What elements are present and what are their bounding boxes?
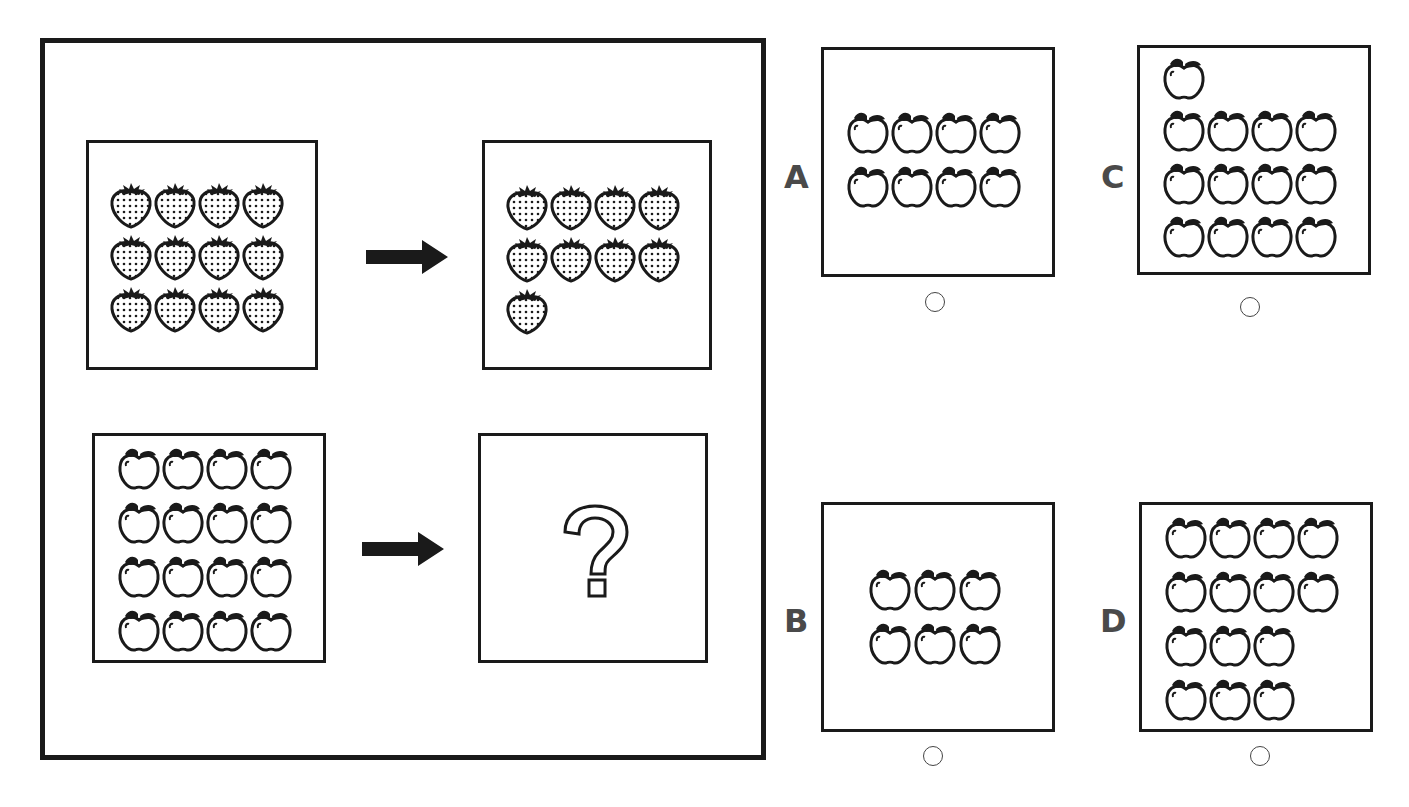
example-input-panel	[86, 140, 318, 370]
apple-icon	[1162, 52, 1206, 102]
apple-icon	[913, 563, 957, 613]
apple-icon	[1164, 673, 1208, 723]
apple-icon	[161, 604, 205, 654]
strawberry-icon	[637, 233, 681, 283]
apple-icon	[868, 617, 912, 667]
apple-icon	[1294, 157, 1338, 207]
apple-icon	[1164, 619, 1208, 669]
option-b-radio[interactable]	[923, 746, 943, 766]
apple-icon	[1162, 104, 1206, 154]
apple-icon	[161, 442, 205, 492]
apple-icon	[934, 106, 978, 156]
apple-icon	[1296, 565, 1340, 615]
apple-icon	[1252, 511, 1296, 561]
apple-icon	[913, 617, 957, 667]
strawberry-icon	[109, 283, 153, 333]
apple-icon	[1252, 565, 1296, 615]
apple-icon	[1164, 511, 1208, 561]
apple-icon	[1250, 104, 1294, 154]
question-output-panel	[478, 433, 708, 663]
option-c-label: C	[1101, 158, 1124, 196]
option-a-panel[interactable]	[821, 47, 1055, 277]
fruit-grid	[109, 179, 285, 335]
apple-icon	[205, 496, 249, 546]
strawberry-icon	[505, 233, 549, 283]
apple-icon	[117, 496, 161, 546]
apple-icon	[205, 604, 249, 654]
option-a-label: A	[784, 158, 809, 196]
apple-icon	[846, 160, 890, 210]
apple-icon	[249, 442, 293, 492]
apple-icon	[1250, 157, 1294, 207]
apple-icon	[1208, 673, 1252, 723]
right-arrow-icon	[362, 532, 444, 566]
strawberry-icon	[197, 283, 241, 333]
option-c-radio[interactable]	[1240, 297, 1260, 317]
apple-icon	[1208, 511, 1252, 561]
apple-icon	[1206, 104, 1250, 154]
strawberry-icon	[549, 181, 593, 231]
strawberry-icon	[241, 283, 285, 333]
strawberry-icon	[505, 181, 549, 231]
example-output-panel	[482, 140, 712, 370]
apple-icon	[1206, 157, 1250, 207]
apple-icon	[1162, 210, 1206, 260]
strawberry-icon	[637, 181, 681, 231]
apple-icon	[958, 617, 1002, 667]
option-b-panel[interactable]	[821, 502, 1055, 732]
option-d-radio[interactable]	[1250, 746, 1270, 766]
strawberry-icon	[153, 231, 197, 281]
apple-icon	[978, 160, 1022, 210]
apple-icon	[1296, 511, 1340, 561]
apple-icon	[1208, 565, 1252, 615]
question-mark-icon	[561, 504, 631, 600]
apple-icon	[1252, 619, 1296, 669]
apple-icon	[117, 442, 161, 492]
apple-icon	[205, 442, 249, 492]
apple-icon	[934, 160, 978, 210]
apple-icon	[1164, 565, 1208, 615]
strawberry-icon	[241, 179, 285, 229]
strawberry-icon	[109, 179, 153, 229]
strawberry-icon	[197, 179, 241, 229]
apple-icon	[1206, 210, 1250, 260]
apple-icon	[161, 550, 205, 600]
apple-icon	[249, 496, 293, 546]
apple-icon	[890, 106, 934, 156]
apple-icon	[1294, 210, 1338, 260]
apple-icon	[868, 563, 912, 613]
strawberry-icon	[153, 179, 197, 229]
option-d-label: D	[1100, 602, 1127, 640]
apple-icon	[1162, 157, 1206, 207]
apple-icon	[205, 550, 249, 600]
strawberry-icon	[549, 233, 593, 283]
strawberry-icon	[593, 181, 637, 231]
apple-icon	[161, 496, 205, 546]
option-c-panel[interactable]	[1137, 45, 1371, 275]
apple-icon	[1250, 210, 1294, 260]
option-a-radio[interactable]	[925, 292, 945, 312]
strawberry-icon	[241, 231, 285, 281]
apple-icon	[117, 550, 161, 600]
fruit-grid	[1164, 511, 1340, 727]
fruit-grid	[1162, 104, 1338, 263]
strawberry-icon	[197, 231, 241, 281]
apple-icon	[249, 604, 293, 654]
fruit-grid	[505, 181, 681, 337]
apple-icon	[958, 563, 1002, 613]
apple-icon	[1294, 104, 1338, 154]
strawberry-icon	[153, 283, 197, 333]
fruit-grid	[846, 106, 1022, 214]
question-input-panel	[92, 433, 326, 663]
apple-icon	[978, 106, 1022, 156]
apple-icon	[846, 106, 890, 156]
apple-icon	[1252, 673, 1296, 723]
fruit-grid	[868, 563, 1003, 671]
fruit-grid	[117, 442, 293, 658]
apple-icon	[249, 550, 293, 600]
option-d-panel[interactable]	[1139, 502, 1373, 732]
strawberry-icon	[593, 233, 637, 283]
strawberry-icon	[505, 285, 549, 335]
right-arrow-icon	[366, 240, 448, 274]
apple-icon	[1208, 619, 1252, 669]
